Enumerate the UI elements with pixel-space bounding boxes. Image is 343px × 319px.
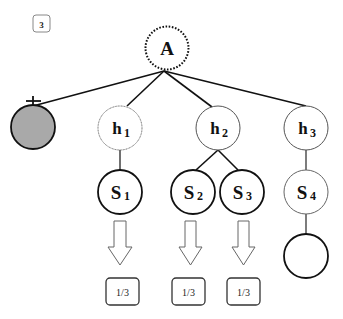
hypothesis-node-h1: h 1 [98,106,142,150]
output-box-s2: 1/3 [172,278,205,305]
output-box-s1: 1/3 [106,278,139,305]
svg-text:h: h [112,119,122,138]
svg-text:S: S [184,182,195,203]
svg-text:3: 3 [310,126,316,140]
corner-badge: 3 [33,15,50,32]
pruned-node [11,96,55,149]
edges [33,71,306,234]
svg-text:1/3: 1/3 [116,287,129,298]
edge-root-h3 [164,71,306,106]
svg-text:3: 3 [39,20,44,30]
hypothesis-node-h2: h 2 [196,106,240,150]
svg-text:1/3: 1/3 [237,287,250,298]
svg-text:S: S [233,182,244,203]
tree-diagram: 3 A h 1 h 2 h [0,0,343,319]
leaf-node [284,234,328,278]
svg-text:2: 2 [222,126,228,140]
arrow-icon-s1 [108,221,132,265]
arrow-icon-s2 [179,221,202,265]
state-node-s3: S 3 [220,170,264,214]
edge-h2-s3 [218,150,238,170]
output-box-s3: 1/3 [227,278,260,305]
svg-text:h: h [210,119,220,138]
arrow-icon-s3 [232,221,255,265]
state-node-s4: S 4 [284,170,328,214]
svg-text:4: 4 [310,189,316,203]
svg-text:h: h [298,119,308,138]
svg-text:S: S [297,182,308,203]
svg-text:2: 2 [197,189,203,203]
svg-text:1: 1 [124,126,130,140]
state-node-s1: S 1 [98,170,142,214]
state-node-s2: S 2 [171,170,215,214]
hypothesis-node-h3: h 3 [284,106,328,150]
svg-text:S: S [111,182,122,203]
edge-h2-s2 [196,150,218,170]
svg-text:3: 3 [246,189,252,203]
root-node-a: A [146,27,189,70]
svg-text:1: 1 [124,189,130,203]
svg-text:A: A [160,38,174,59]
svg-text:1/3: 1/3 [182,287,195,298]
